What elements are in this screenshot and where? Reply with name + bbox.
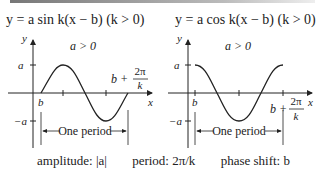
svg-text:2π: 2π	[134, 65, 146, 77]
svg-text:x: x	[147, 96, 153, 108]
phase-shift-label: phase shift: b	[221, 153, 290, 168]
svg-text:One period: One period	[58, 124, 112, 138]
svg-text:b +: b +	[111, 72, 128, 86]
caption: amplitude: |a| period: 2π/k phase shift:…	[0, 153, 327, 169]
svg-text:b: b	[38, 96, 44, 108]
svg-text:−a: −a	[169, 115, 182, 127]
sine-graph: One period y x a −a b a > 0 b + 2π k	[8, 32, 153, 148]
svg-text:b: b	[192, 96, 198, 108]
svg-text:−a: −a	[14, 115, 27, 127]
svg-text:a: a	[174, 59, 180, 71]
svg-text:x: x	[307, 96, 313, 108]
period-label: period: 2π/k	[132, 153, 195, 168]
cosine-graph: One period y x a −a b a > 0 b + 2π k	[168, 32, 313, 148]
svg-text:a: a	[18, 59, 24, 71]
svg-text:y: y	[21, 32, 27, 44]
amplitude-label: amplitude: |a|	[37, 153, 107, 168]
svg-text:a > 0: a > 0	[225, 39, 251, 53]
svg-text:k: k	[294, 110, 300, 122]
svg-text:One period: One period	[212, 124, 266, 138]
svg-text:b +: b +	[270, 102, 287, 116]
svg-text:2π: 2π	[290, 95, 302, 107]
svg-text:k: k	[138, 79, 144, 91]
svg-text:y: y	[176, 32, 182, 44]
svg-text:a > 0: a > 0	[70, 39, 96, 53]
